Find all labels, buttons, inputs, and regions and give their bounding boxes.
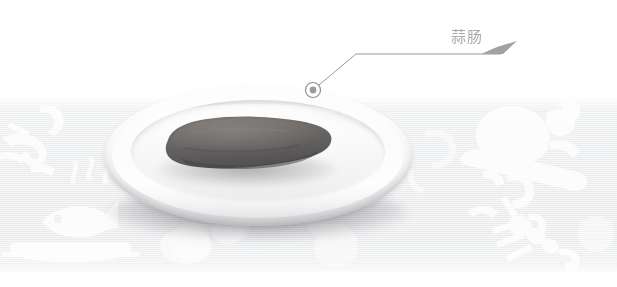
image-canvas: 蒜肠 bbox=[0, 0, 617, 287]
leader-line-path bbox=[313, 54, 501, 90]
leader-arrow-wedge bbox=[481, 41, 517, 54]
callout-label-text: 蒜肠 bbox=[451, 27, 483, 47]
sausage bbox=[159, 113, 336, 175]
